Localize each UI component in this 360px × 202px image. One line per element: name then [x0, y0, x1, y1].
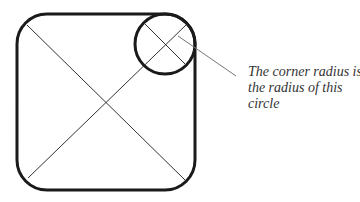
diagonal-bottom-left-to-top-right: [28, 25, 186, 178]
circle-diagonal-1: [144, 23, 186, 65]
leader-line: [178, 36, 236, 76]
caption-line-3: circle: [248, 96, 360, 112]
caption-line-2: the radius of this: [248, 80, 360, 96]
caption-text: The corner radius is the radius of this …: [248, 64, 360, 112]
caption-line-1: The corner radius is: [248, 64, 360, 80]
